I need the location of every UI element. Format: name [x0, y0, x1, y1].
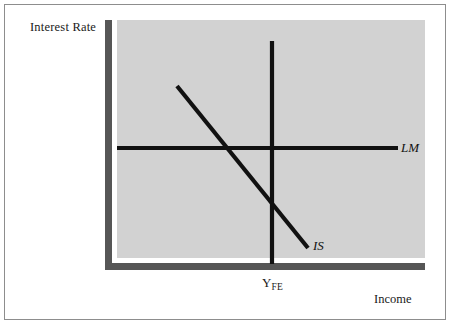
yfe-base: Y	[262, 275, 271, 290]
curve-layer	[0, 0, 452, 326]
figure-screenshot: Interest Rate Income LM IS YFE	[0, 0, 452, 326]
yfe-tick-label: YFE	[262, 275, 283, 292]
lm-curve-label: LM	[401, 140, 419, 156]
is-lm-diagram: Interest Rate Income LM IS YFE	[0, 0, 452, 326]
is-curve	[177, 86, 308, 248]
yfe-subscript: FE	[271, 282, 283, 292]
is-curve-label: IS	[313, 238, 324, 254]
